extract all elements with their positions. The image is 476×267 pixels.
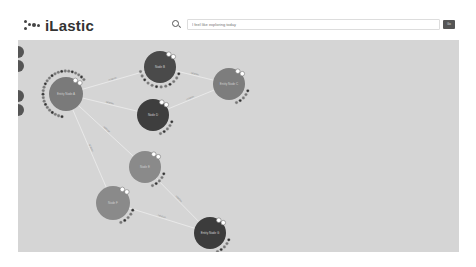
node-dot[interactable] [175, 77, 178, 80]
node-expand-icon[interactable] [167, 52, 172, 57]
node-dot[interactable] [139, 70, 142, 73]
graph-node[interactable]: Entity Node C [213, 68, 249, 104]
node-dot[interactable] [159, 132, 162, 135]
node-dot[interactable] [61, 115, 64, 118]
node-dot[interactable] [44, 82, 47, 85]
node-expand-icon[interactable] [120, 187, 125, 192]
node-dot[interactable] [172, 80, 175, 83]
node-dot[interactable] [51, 74, 54, 77]
node-dot[interactable] [226, 242, 229, 245]
graph-node[interactable]: Node E [129, 151, 165, 187]
graph-svg[interactable]: relationrelationrelationrelationrelation… [18, 40, 459, 252]
node-dot[interactable] [177, 72, 180, 75]
graph-canvas[interactable]: relationrelationrelationrelationrelation… [18, 40, 459, 252]
graph-node[interactable]: Node D [137, 99, 173, 135]
search-icon [172, 20, 181, 29]
node-dot[interactable] [48, 77, 51, 80]
node-info-icon[interactable] [156, 154, 161, 159]
node-expand-icon[interactable] [160, 100, 165, 105]
node-info-icon[interactable] [240, 71, 245, 76]
node-dot[interactable] [57, 114, 60, 117]
node-dot[interactable] [245, 93, 248, 96]
node-dot[interactable] [43, 100, 46, 103]
node-dot[interactable] [54, 72, 57, 75]
node-dot[interactable] [223, 245, 226, 248]
node-dot[interactable] [119, 221, 122, 224]
node-info-icon[interactable] [221, 220, 226, 225]
node-dot[interactable] [48, 109, 51, 112]
node-dot[interactable] [77, 73, 80, 76]
graph-node[interactable]: Entity Node G [194, 217, 230, 252]
node-dot[interactable] [155, 85, 158, 88]
node-info-icon[interactable] [164, 102, 169, 107]
search-bar: Go [172, 18, 455, 30]
node-dot[interactable] [141, 75, 144, 78]
node-expand-icon[interactable] [152, 152, 157, 157]
node-dot[interactable] [54, 113, 57, 116]
node-info-icon[interactable] [171, 54, 176, 59]
node-dot[interactable] [160, 86, 163, 89]
node-label: Node B [155, 65, 165, 69]
node-dot[interactable] [169, 124, 172, 127]
node-dot[interactable] [46, 106, 49, 109]
node-dot[interactable] [57, 71, 60, 74]
node-dot[interactable] [151, 84, 154, 87]
node-expand-icon[interactable] [217, 218, 222, 223]
node-dot[interactable] [74, 72, 77, 75]
node-dot[interactable] [166, 127, 169, 130]
edge-label: relation [175, 195, 183, 203]
node-dot[interactable] [83, 78, 86, 81]
node-dot[interactable] [239, 99, 242, 102]
node-dot[interactable] [227, 238, 230, 241]
node-dot[interactable] [131, 209, 134, 212]
node-dot[interactable] [64, 70, 67, 73]
node-dot[interactable] [123, 219, 126, 222]
node-dot[interactable] [42, 93, 45, 96]
node-dot[interactable] [44, 103, 47, 106]
node-dot[interactable] [155, 182, 158, 185]
node-dot[interactable] [151, 184, 154, 187]
node-dot[interactable] [67, 70, 70, 73]
app-logo[interactable]: iLastic [24, 14, 94, 36]
node-label: Node E [140, 165, 150, 169]
graph-node[interactable]: Node B [139, 51, 180, 88]
node-dot[interactable] [80, 76, 83, 79]
node-dot[interactable] [163, 130, 166, 133]
node-dot[interactable] [235, 101, 238, 104]
node-label: Entity Node A [57, 92, 75, 96]
search-input[interactable] [187, 19, 440, 30]
node-dot[interactable] [42, 89, 45, 92]
node-dot[interactable] [161, 176, 164, 179]
graph-node[interactable]: Entity Node A [42, 70, 86, 118]
node-dot[interactable] [162, 172, 165, 175]
node-dot[interactable] [127, 216, 130, 219]
node-dot[interactable] [42, 96, 45, 99]
node-dot[interactable] [216, 250, 219, 252]
node-dot[interactable] [46, 79, 49, 82]
edge-label: relation [88, 144, 94, 153]
node-dot[interactable] [147, 82, 150, 85]
node-dot[interactable] [51, 111, 54, 114]
node-dot[interactable] [43, 86, 46, 89]
node-dot[interactable] [60, 70, 63, 73]
node-expand-icon[interactable] [236, 69, 241, 74]
node-dot[interactable] [158, 179, 161, 182]
node-label: Node F [108, 201, 118, 205]
node-expand-icon[interactable] [73, 78, 78, 83]
node-dot[interactable] [129, 213, 132, 216]
node-info-icon[interactable] [78, 81, 83, 86]
graph-node[interactable]: Node F [96, 186, 134, 224]
node-dot[interactable] [143, 78, 146, 81]
search-button[interactable]: Go [443, 20, 455, 29]
node-dot[interactable] [164, 85, 167, 88]
node-info-icon[interactable] [125, 190, 130, 195]
node-label: Entity Node G [201, 231, 220, 235]
node-dot[interactable] [220, 248, 223, 251]
node-label: Node D [148, 113, 159, 117]
node-dot[interactable] [246, 89, 249, 92]
node-dot[interactable] [170, 120, 173, 123]
node-dot[interactable] [169, 83, 172, 86]
node-dot[interactable] [242, 96, 245, 99]
node-dot[interactable] [71, 70, 74, 73]
graph-edge[interactable] [66, 94, 113, 203]
